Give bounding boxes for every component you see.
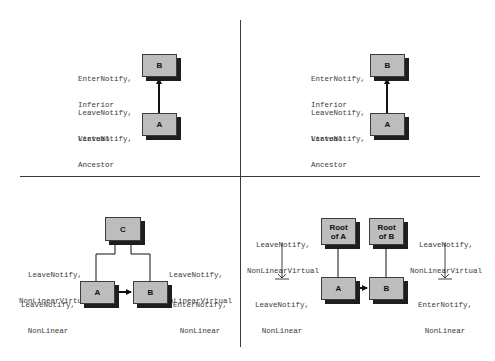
window-a-box: A bbox=[142, 113, 177, 136]
root-of-b-label-line1: Root bbox=[377, 223, 395, 232]
window-b-box: B bbox=[369, 277, 404, 300]
window-c-box: C bbox=[105, 217, 141, 241]
window-b-label: B bbox=[385, 61, 391, 70]
window-a-box: A bbox=[80, 281, 115, 304]
root-of-a-label-line2: of A bbox=[329, 232, 347, 241]
window-a-label: A bbox=[157, 120, 163, 129]
root-of-a-label-line1: Root bbox=[329, 223, 347, 232]
connector-lines bbox=[0, 0, 495, 361]
window-b-box: B bbox=[142, 54, 177, 77]
root-of-b-label-line2: of B bbox=[377, 232, 395, 241]
root-of-a-box: Root of A bbox=[321, 218, 356, 245]
window-b-label: B bbox=[148, 288, 154, 297]
window-a-label: A bbox=[385, 120, 391, 129]
window-a-label: A bbox=[336, 284, 342, 293]
bottom-right-left-down-arrow bbox=[275, 243, 289, 279]
bottom-right-right-down-arrow bbox=[438, 243, 452, 279]
root-of-b-box: Root of B bbox=[369, 218, 404, 245]
window-a-label: A bbox=[95, 288, 101, 297]
window-b-label: B bbox=[157, 61, 163, 70]
window-a-box: A bbox=[321, 277, 356, 300]
window-a-box: A bbox=[370, 113, 405, 136]
window-b-label: B bbox=[384, 284, 390, 293]
window-c-label: C bbox=[120, 225, 126, 234]
window-b-box: B bbox=[370, 54, 405, 77]
window-b-box: B bbox=[133, 281, 168, 304]
